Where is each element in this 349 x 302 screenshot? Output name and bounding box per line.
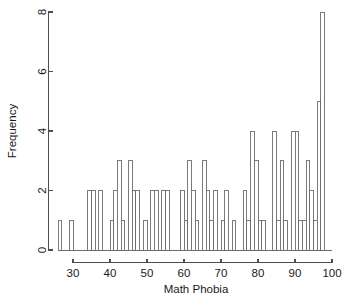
histogram-bar (180, 191, 184, 251)
x-tick-label: 50 (141, 267, 154, 279)
histogram-bar (306, 161, 310, 250)
histogram-bar (302, 220, 306, 250)
histogram-bar (92, 191, 96, 251)
histogram-bar (195, 220, 199, 250)
histogram-bar (121, 220, 125, 250)
histogram-bar (277, 220, 281, 250)
x-axis-title: Math Phobia (164, 283, 229, 295)
histogram-plot: 02468 30405060708090100 Math Phobia Freq… (0, 0, 349, 302)
y-axis: 02468 (36, 9, 53, 253)
histogram-bar (284, 220, 288, 250)
y-tick-label: 8 (36, 9, 48, 15)
x-tick-label: 60 (178, 267, 191, 279)
histogram-bar (232, 220, 236, 250)
histogram-bar (321, 12, 325, 250)
histogram-bar (151, 191, 155, 251)
histogram-bar (247, 220, 251, 250)
histogram-bar (99, 191, 103, 251)
histogram-bar (295, 131, 299, 250)
histogram-bar (243, 191, 247, 251)
histogram-bar (210, 220, 214, 250)
histogram-bar (317, 101, 321, 250)
histogram-bar (310, 191, 314, 251)
histogram-bar (154, 191, 158, 251)
histogram-bar (191, 191, 195, 251)
x-tick-label: 30 (67, 267, 80, 279)
histogram-bar (299, 220, 303, 250)
histogram-bar (273, 131, 277, 250)
x-axis-line (73, 259, 332, 263)
histogram-bar (110, 220, 114, 250)
y-tick-label: 0 (36, 247, 48, 253)
histogram-bar (203, 161, 207, 250)
histogram-bar (136, 191, 140, 251)
x-tick-label: 90 (289, 267, 302, 279)
histogram-bar (262, 220, 266, 250)
x-tick-label: 40 (104, 267, 117, 279)
histogram-bar (132, 191, 136, 251)
x-tick-label: 80 (252, 267, 265, 279)
histogram-bar (166, 191, 170, 251)
histogram-bar (314, 220, 318, 250)
chart-canvas: 02468 30405060708090100 Math Phobia Freq… (0, 0, 349, 302)
histogram-bar (117, 161, 121, 250)
histogram-bar (291, 131, 295, 250)
histogram-bar (88, 191, 92, 251)
histogram-bar (280, 161, 284, 250)
histogram-bar (143, 220, 147, 250)
x-tick-label: 100 (322, 267, 341, 279)
histogram-bar (58, 220, 62, 250)
histogram-bar (221, 220, 225, 250)
histogram-bar (258, 220, 262, 250)
x-axis: 30405060708090100 (67, 259, 342, 279)
histogram-bars (58, 12, 324, 250)
y-tick-label: 2 (36, 187, 48, 193)
histogram-bar (114, 191, 118, 251)
histogram-bar (129, 161, 133, 250)
histogram-bar (206, 191, 210, 251)
y-axis-title: Frequency (6, 104, 18, 159)
histogram-bar (69, 220, 73, 250)
histogram-bar (251, 131, 255, 250)
histogram-bar (225, 191, 229, 251)
histogram-bar (188, 161, 192, 250)
histogram-bar (214, 191, 218, 251)
histogram-bar (184, 220, 188, 250)
x-tick-label: 70 (215, 267, 228, 279)
histogram-bar (254, 161, 258, 250)
y-tick-label: 6 (36, 68, 48, 74)
histogram-bar (162, 191, 166, 251)
y-tick-label: 4 (36, 127, 48, 134)
